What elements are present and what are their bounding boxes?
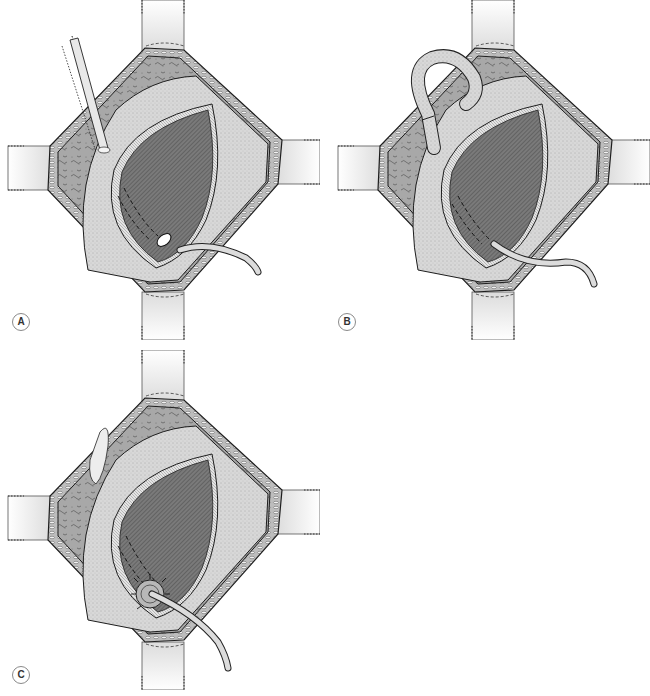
surgical-field-diagram-a [0,0,320,340]
panel-label-a: A [12,313,30,331]
figure-panel-c: C [0,350,320,690]
surgical-field-diagram-b [330,0,650,340]
figure-panel-a: A [0,0,320,340]
panel-label-c: C [12,666,30,684]
surgical-field-diagram-c [0,350,320,690]
figure-panel-b: B [330,0,650,340]
panel-label-b: B [338,313,356,331]
